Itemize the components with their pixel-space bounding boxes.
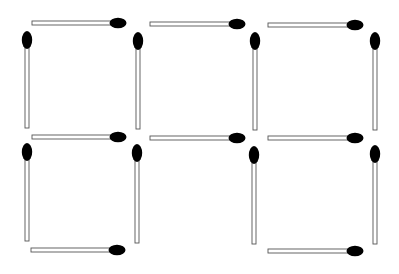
match-head-icon [229, 133, 246, 143]
match-stick [252, 162, 256, 244]
match-stick [150, 22, 231, 26]
matchstick-h-top-2[interactable] [150, 19, 246, 29]
match-stick [268, 136, 348, 140]
matchstick-v-bot-3[interactable] [249, 146, 259, 244]
matchstick-grid [0, 0, 399, 274]
match-head-icon [132, 144, 142, 162]
matchstick-v-top-4[interactable] [370, 32, 380, 130]
match-head-icon [347, 20, 364, 30]
match-head-icon [110, 132, 127, 142]
match-stick [373, 161, 377, 244]
matchstick-v-bot-1[interactable] [22, 143, 32, 241]
matchstick-h-mid-2[interactable] [150, 133, 246, 143]
match-head-icon [22, 143, 32, 161]
match-head-icon [250, 32, 260, 50]
match-head-icon [109, 245, 126, 255]
match-stick [31, 248, 111, 252]
match-head-icon [370, 32, 380, 50]
match-stick [32, 135, 112, 139]
matchstick-v-top-1[interactable] [22, 31, 32, 128]
match-stick [373, 48, 377, 130]
match-stick [25, 47, 29, 128]
match-stick [268, 249, 348, 253]
match-stick [136, 48, 140, 129]
match-stick [32, 21, 112, 25]
match-head-icon [347, 133, 364, 143]
match-stick [150, 136, 231, 140]
matchstick-h-top-3[interactable] [268, 20, 364, 30]
match-head-icon [370, 145, 380, 163]
match-head-icon [249, 146, 259, 164]
match-head-icon [133, 32, 143, 50]
matchstick-h-bot-1[interactable] [31, 245, 126, 255]
matchstick-h-mid-3[interactable] [268, 133, 364, 143]
match-head-icon [229, 19, 246, 29]
match-stick [253, 48, 257, 130]
match-head-icon [22, 31, 32, 49]
match-stick [135, 160, 139, 243]
match-stick [25, 159, 29, 241]
match-head-icon [110, 18, 127, 28]
matchstick-v-bot-2[interactable] [132, 144, 142, 243]
matchstick-h-top-1[interactable] [32, 18, 127, 28]
matchstick-h-mid-1[interactable] [32, 132, 127, 142]
match-head-icon [347, 246, 364, 256]
matchstick-v-top-2[interactable] [133, 32, 143, 129]
match-stick [268, 23, 348, 27]
matchstick-h-bot-3[interactable] [268, 246, 364, 256]
matchstick-puzzle-canvas [0, 0, 399, 274]
matchstick-v-top-3[interactable] [250, 32, 260, 130]
matchstick-v-bot-4[interactable] [370, 145, 380, 244]
